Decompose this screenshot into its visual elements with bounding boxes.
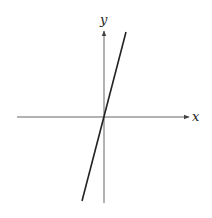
- y-axis-label: y: [99, 12, 108, 27]
- coordinate-plot: x y: [0, 0, 212, 218]
- x-axis-label: x: [192, 109, 200, 124]
